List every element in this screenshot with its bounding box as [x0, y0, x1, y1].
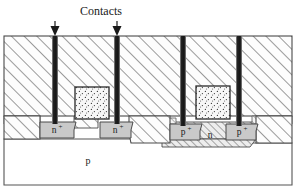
doped-sup-n-plus-1: +	[59, 123, 63, 131]
doped-region-n-plus-1: n +	[40, 122, 76, 138]
doped-sup-n-plus-2: +	[120, 123, 124, 131]
n-well-label: n	[208, 130, 213, 140]
substrate-label: p	[86, 155, 91, 166]
doped-region-n-plus-2: n +	[100, 122, 133, 138]
doped-label-p-plus-2: p	[237, 127, 242, 137]
poly-gate-right	[196, 86, 230, 119]
poly-gate-left	[75, 87, 109, 119]
contacts-callout: Contacts	[51, 4, 123, 36]
contact-plug-4	[236, 36, 242, 126]
doped-region-p-plus-1: p +	[170, 124, 202, 140]
contact-plug-3	[180, 36, 186, 126]
diagram-canvas: n + n + p + p +	[0, 0, 296, 189]
doped-label-p-plus-1: p	[181, 127, 186, 137]
doped-sup-p-plus-1: +	[188, 125, 192, 133]
doped-sup-p-plus-2: +	[244, 125, 248, 133]
contact-plug-2	[114, 36, 120, 124]
doped-label-n-plus-2: n	[113, 125, 118, 135]
doped-label-n-plus-1: n	[52, 125, 57, 135]
contact-plug-1	[52, 36, 58, 124]
doped-region-p-plus-2: p +	[226, 124, 258, 140]
down-arrow-icon-1	[51, 21, 60, 36]
cmos-cross-section-diagram: n + n + p + p +	[0, 0, 296, 189]
down-arrow-icon-2	[113, 21, 122, 36]
contacts-callout-label: Contacts	[80, 4, 122, 18]
